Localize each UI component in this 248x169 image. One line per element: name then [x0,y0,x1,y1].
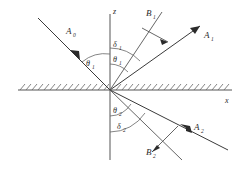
optics-ray-diagram: z x A 0 A 1 B 1 A 2 B 2 θ 1 θ [0,0,248,169]
ray-label-incident-sub: 0 [73,32,76,38]
ray-label-transmitted-b-letter: B [146,147,152,157]
angle-delta-2-sub: 2 [123,127,126,133]
angle-theta-2-sub: 2 [119,111,122,117]
reflected-ray-a [110,26,200,90]
reflected-ray-b-line [110,12,162,90]
x-axis-label: x [224,96,229,105]
angle-delta-1-letter: δ [113,40,117,49]
diagram-canvas: z x A 0 A 1 B 1 A 2 B 2 θ 1 θ [0,0,248,169]
angle-theta-1-incident-sub: 1 [92,64,95,70]
transmitted-ray-a-line [110,90,228,150]
ray-label-reflected-a-letter: A [203,30,210,40]
incident-ray-arrow [70,50,80,60]
transmitted-ray-b-arrow [152,145,160,152]
transmitted-ray-a [110,90,228,150]
angle-theta-1-reflected-letter: θ [113,55,117,64]
ray-label-incident-letter: A [65,26,72,36]
angle-arcs-upper [82,48,140,72]
ray-label-transmitted-b-sub: 2 [153,153,156,159]
ray-label-reflected-a-sub: 1 [211,36,214,42]
angle-theta-1-incident-letter: θ [86,59,90,68]
reflected-ray-b [110,12,168,90]
angle-label-theta-1-incident: θ 1 [86,59,95,70]
ray-label-transmitted-a: A 2 [193,122,204,134]
ray-label-reflected-a: A 1 [203,30,214,42]
reflected-ray-a-arrow [190,26,200,34]
ray-label-reflected-b: B 1 [146,8,156,20]
interface-boundary [18,84,232,90]
transmitted-ray-a-arrow [180,124,192,133]
z-axis-label: z [112,7,117,16]
arc-delta-2 [110,113,145,132]
angle-theta-1-reflected-sub: 1 [119,60,122,66]
ray-label-incident: A 0 [65,26,76,38]
angle-theta-2-letter: θ [113,106,117,115]
angle-delta-2-letter: δ [117,122,121,131]
ray-label-transmitted-a-letter: A [193,122,200,132]
angle-delta-1-sub: 1 [119,45,122,51]
reflected-ray-b-perp-line [142,28,168,42]
reflected-ray-a-line [110,26,200,90]
ray-label-transmitted-a-sub: 2 [201,128,204,134]
hatch-marks [20,84,229,90]
angle-label-delta-1: δ 1 [113,40,122,51]
ray-label-reflected-b-letter: B [146,8,152,18]
ray-label-reflected-b-sub: 1 [153,14,156,20]
